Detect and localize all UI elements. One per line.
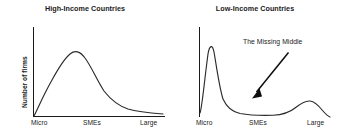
y-axis-label-high-income: Number of firms <box>21 56 28 108</box>
annotation-the-missing-middle: The Missing Middle <box>243 38 302 45</box>
missing-middle-figure: High-Income Countries Number of firms Mi… <box>0 0 341 140</box>
annotation-arrow-line <box>257 53 289 93</box>
curve-high-income <box>34 52 163 116</box>
x-tick-label-large-high-income: Large <box>140 119 157 126</box>
annotation-arrow-head <box>252 89 262 99</box>
x-tick-label-smes-high-income: SMEs <box>83 119 101 126</box>
chart-panel-high-income: High-Income Countries Number of firms Mi… <box>0 0 170 140</box>
chart-panel-low-income: Low-Income Countries Number of firms The… <box>170 0 340 140</box>
x-tick-label-micro-high-income: Micro <box>31 119 47 126</box>
x-tick-label-smes-low-income: SMEs <box>249 119 267 126</box>
x-tick-label-large-low-income: Large <box>307 119 324 126</box>
x-tick-label-micro-low-income: Micro <box>196 119 212 126</box>
